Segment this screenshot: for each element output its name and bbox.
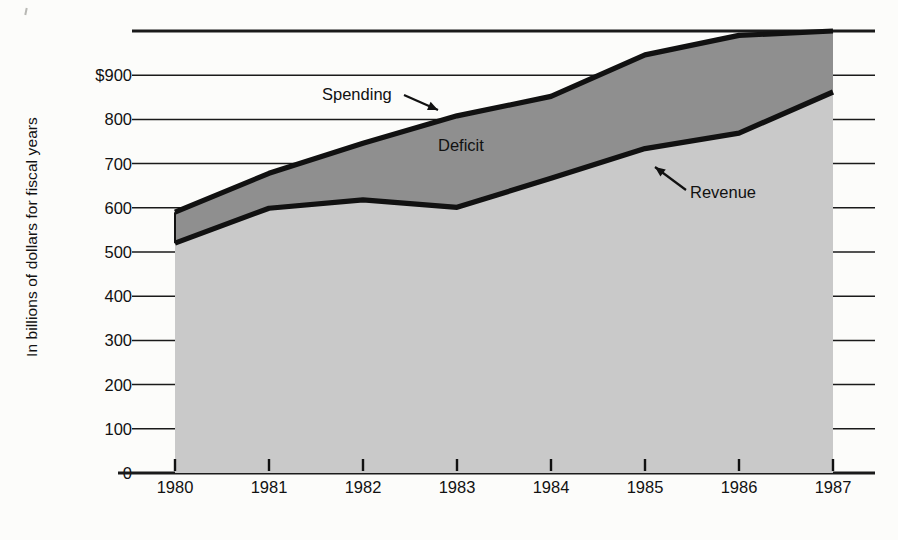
- region-label-deficit: Deficit: [438, 136, 484, 155]
- x-axis-tick-label: 1982: [345, 478, 382, 497]
- chart-figure: In billions of dollars for fiscal years …: [0, 0, 898, 540]
- x-axis-tick-label: 1983: [439, 478, 476, 497]
- x-axis-tick-label: 1981: [251, 478, 288, 497]
- x-axis-tick-label: 1985: [627, 478, 664, 497]
- x-axis-tick-label: 1980: [157, 478, 194, 497]
- x-axis-tick-label: 1987: [815, 478, 852, 497]
- x-axis-tick-label: 1984: [533, 478, 570, 497]
- area-fills: [175, 31, 833, 473]
- series-label-spending: Spending: [322, 85, 392, 104]
- arrow-to-spending-line: [404, 95, 438, 110]
- series-label-revenue: Revenue: [690, 183, 756, 202]
- plot-area: [0, 0, 898, 540]
- x-axis-tick-label: 1986: [721, 478, 758, 497]
